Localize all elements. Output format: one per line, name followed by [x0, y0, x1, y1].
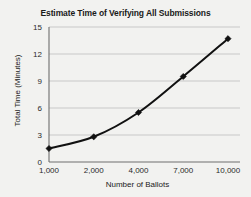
x-tick-label: 10,000 — [216, 166, 241, 175]
x-tick-label: 1,000 — [39, 166, 60, 175]
y-tick-label: 15 — [33, 23, 42, 32]
y-tick-label: 9 — [38, 77, 43, 86]
x-axis-ticks: 1,0002,0004,0007,00010,000 — [39, 166, 241, 175]
gridlines — [49, 27, 240, 135]
chart-container: Estimate Time of Verifying All Submissio… — [0, 0, 251, 197]
x-tick-label: 7,000 — [173, 166, 194, 175]
data-point-marker — [46, 145, 52, 151]
plot-area: 03691215 1,0002,0004,0007,00010,000 — [0, 0, 251, 197]
series-line-total-time — [49, 39, 228, 149]
y-tick-label: 6 — [38, 104, 43, 113]
data-point-marker — [91, 134, 97, 140]
y-tick-label: 3 — [38, 131, 43, 140]
y-axis-ticks: 03691215 — [33, 23, 42, 167]
y-tick-label: 12 — [33, 50, 42, 59]
x-tick-label: 4,000 — [128, 166, 149, 175]
data-markers — [46, 36, 231, 152]
x-tick-label: 2,000 — [84, 166, 105, 175]
data-series — [49, 39, 228, 149]
